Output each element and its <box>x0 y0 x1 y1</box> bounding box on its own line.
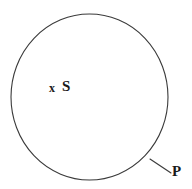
element-marker-label: x <box>49 82 55 94</box>
point-name-label: P <box>172 164 181 179</box>
set-diagram-figure: x S P <box>0 0 192 189</box>
diagram-canvas <box>0 0 192 189</box>
set-boundary-circle <box>11 14 168 180</box>
set-name-label: S <box>62 79 70 94</box>
point-leader-line <box>150 159 171 173</box>
